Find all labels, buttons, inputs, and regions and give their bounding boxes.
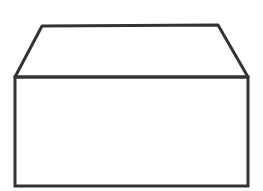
trapezoid-lid (15, 25, 248, 77)
box-diagram (0, 0, 263, 191)
rectangle-body (15, 77, 248, 186)
